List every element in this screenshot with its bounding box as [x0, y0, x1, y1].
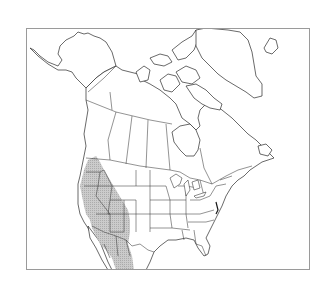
greenland: [196, 28, 262, 98]
ellesmere-island: [172, 30, 198, 60]
north-america-map: [0, 0, 329, 282]
arctic-island-3: [160, 74, 180, 92]
arctic-island-4: [176, 66, 200, 84]
arctic-island-2: [150, 54, 172, 66]
iceland: [264, 38, 278, 54]
